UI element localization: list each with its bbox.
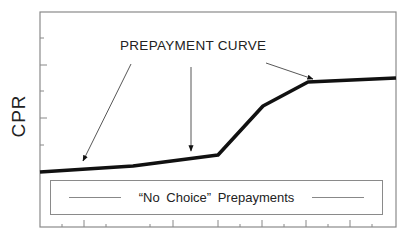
arrow-right <box>266 63 313 79</box>
annotation-arrows <box>83 63 313 161</box>
legend-line-right <box>312 197 364 198</box>
y-axis-label: CPR <box>4 86 34 146</box>
legend-label: “No Choice” Prepayments <box>139 190 295 205</box>
legend-box: “No Choice” Prepayments <box>50 180 383 215</box>
prepayment-curve-line <box>40 78 396 172</box>
prepayment-curve-annotation: PREPAYMENT CURVE <box>120 38 266 53</box>
arrow-left <box>83 64 131 161</box>
y-axis-ticks <box>40 38 47 145</box>
x-axis-ticks <box>62 220 372 227</box>
legend-line-left <box>69 197 121 198</box>
